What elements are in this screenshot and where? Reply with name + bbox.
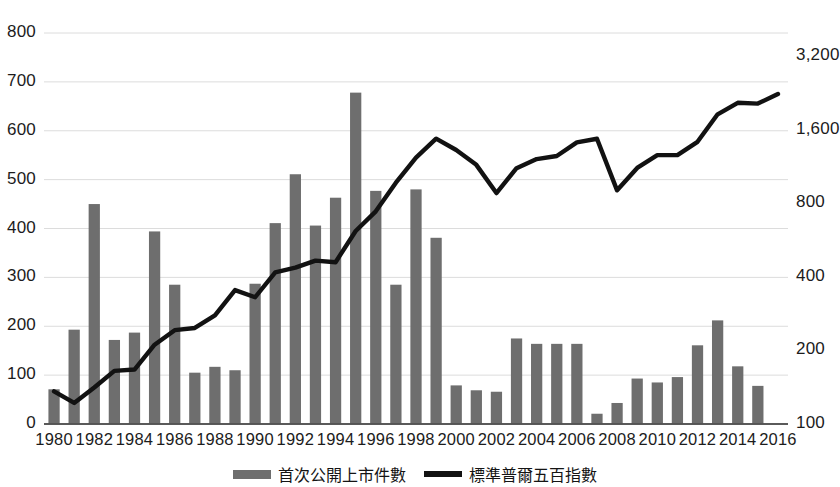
y-axis-right-tick-label: 800 — [796, 192, 825, 212]
x-axis-tick-label: 1982 — [72, 430, 116, 449]
bar-series — [48, 93, 763, 424]
bar — [390, 285, 401, 424]
x-axis-tick-label: 2012 — [676, 430, 720, 449]
bar — [491, 392, 502, 424]
bar — [209, 367, 220, 424]
bar — [250, 284, 261, 424]
x-axis-tick-label: 2014 — [716, 430, 760, 449]
y-axis-right-tick-label: 1,600 — [796, 119, 840, 139]
x-axis-tick-label: 1992 — [273, 430, 317, 449]
y-axis-left-tick-label: 700 — [0, 71, 36, 91]
bar — [370, 191, 381, 424]
y-axis-right-tick-label: 3,200 — [796, 45, 840, 65]
bar — [149, 231, 160, 424]
bar — [350, 93, 361, 424]
bar — [229, 370, 240, 424]
bar — [632, 379, 643, 424]
bar — [69, 330, 80, 424]
y-axis-left-tick-label: 400 — [0, 218, 36, 238]
bar — [752, 386, 763, 424]
bar — [672, 377, 683, 424]
y-axis-left-tick-label: 200 — [0, 315, 36, 335]
bar — [511, 338, 522, 424]
bar — [551, 344, 562, 424]
x-axis-tick-label: 2008 — [595, 430, 639, 449]
bar — [732, 366, 743, 424]
chart-legend: 首次公開上市件數 標準普爾五百指數 — [0, 462, 829, 486]
y-axis-left-tick-label: 0 — [0, 413, 36, 433]
x-axis-tick-label: 1994 — [314, 430, 358, 449]
legend-label-sp500: 標準普爾五百指數 — [469, 462, 597, 486]
bar — [290, 174, 301, 424]
x-axis-tick-label: 2002 — [474, 430, 518, 449]
x-axis-tick-label: 1986 — [153, 430, 197, 449]
y-axis-right-tick-label: 200 — [796, 339, 825, 359]
bar — [430, 238, 441, 424]
y-axis-left-tick-label: 800 — [0, 22, 36, 42]
y-axis-right-tick-label: 100 — [796, 413, 825, 433]
y-axis-left-tick-label: 600 — [0, 120, 36, 140]
x-axis-tick-label: 1990 — [233, 430, 277, 449]
x-axis-tick-label: 2006 — [555, 430, 599, 449]
bar — [451, 385, 462, 424]
bar — [410, 189, 421, 424]
bar — [692, 345, 703, 424]
bar — [531, 344, 542, 424]
legend-label-ipo-count: 首次公開上市件數 — [278, 462, 406, 486]
y-axis-left-tick-label: 500 — [0, 169, 36, 189]
legend-item-sp500: 標準普爾五百指數 — [424, 462, 597, 486]
bar — [712, 320, 723, 424]
bar — [109, 340, 120, 424]
x-axis-tick-label: 1988 — [193, 430, 237, 449]
bar — [571, 344, 582, 424]
bar — [310, 226, 321, 424]
bar — [330, 198, 341, 424]
bar — [611, 403, 622, 424]
bar — [471, 390, 482, 424]
y-axis-left-tick-label: 300 — [0, 266, 36, 286]
x-axis-tick-label: 2004 — [515, 430, 559, 449]
legend-line-swatch-icon — [424, 471, 462, 477]
x-axis-tick-label: 2000 — [434, 430, 478, 449]
x-axis-tick-label: 1996 — [354, 430, 398, 449]
bar — [652, 382, 663, 424]
legend-bar-swatch-icon — [233, 470, 271, 479]
bar — [189, 373, 200, 424]
legend-item-ipo-count: 首次公開上市件數 — [233, 462, 406, 486]
x-axis-tick-label: 1984 — [112, 430, 156, 449]
bar — [169, 285, 180, 424]
x-axis-tick-label: 2010 — [635, 430, 679, 449]
x-axis-tick-label: 1980 — [32, 430, 76, 449]
y-axis-left-tick-label: 100 — [0, 364, 36, 384]
x-axis-tick-label: 1998 — [394, 430, 438, 449]
bar — [129, 333, 140, 424]
bar — [591, 414, 602, 424]
bar — [270, 223, 281, 424]
y-axis-right-tick-label: 400 — [796, 266, 825, 286]
x-axis-tick-label: 2016 — [756, 430, 800, 449]
